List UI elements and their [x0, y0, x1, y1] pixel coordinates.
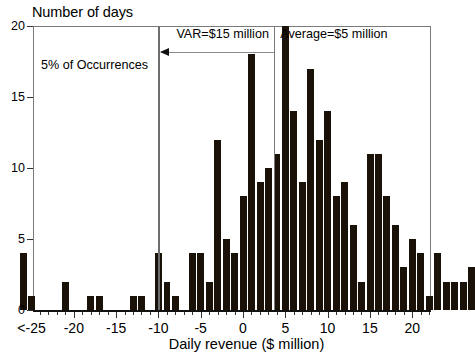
histogram-bar — [248, 54, 255, 310]
x-tick-label: -10 — [148, 320, 168, 336]
histogram-bar — [290, 111, 297, 310]
histogram-bar — [62, 282, 69, 310]
x-tick-minor — [125, 312, 126, 315]
x-tick-minor — [99, 312, 100, 315]
x-tick-label: 10 — [320, 320, 336, 336]
x-tick-minor — [133, 312, 134, 315]
histogram-bar — [443, 282, 450, 310]
x-tick-minor — [192, 312, 193, 315]
histogram-bar — [96, 296, 103, 310]
y-tick-label: 5 — [0, 232, 25, 246]
histogram-bar — [468, 267, 475, 310]
x-tick-minor — [429, 312, 430, 315]
x-tick-label: -15 — [106, 320, 126, 336]
histogram-bar — [316, 140, 323, 310]
x-tick-label: 15 — [362, 320, 378, 336]
y-tick — [27, 97, 33, 98]
occurrences-annotation-label: 5% of Occurrences — [41, 58, 148, 72]
y-tick-label: 10 — [0, 161, 25, 175]
x-tick-minor — [167, 312, 168, 315]
y-tick — [27, 310, 33, 311]
histogram-bar — [197, 253, 204, 310]
x-tick-major — [243, 312, 244, 318]
average-annotation-label: Average=$5 million — [280, 27, 387, 41]
histogram-bar — [333, 196, 340, 310]
var-annotation-label: VAR=$15 million — [176, 27, 269, 41]
x-tick-major — [285, 312, 286, 318]
histogram-bar — [299, 182, 306, 310]
plot-area: VAR=$15 million Average=$5 million 5% of… — [33, 26, 431, 311]
x-tick-minor — [218, 312, 219, 315]
x-tick-minor — [378, 312, 379, 315]
histogram-bar — [282, 26, 289, 310]
x-tick-minor — [277, 312, 278, 315]
x-tick-minor — [319, 312, 320, 315]
x-tick-minor — [336, 312, 337, 315]
histogram-bar — [409, 239, 416, 310]
plot-frame-left — [33, 26, 34, 311]
x-tick-minor — [226, 312, 227, 315]
x-tick-minor — [387, 312, 388, 315]
histogram-bar — [324, 111, 331, 310]
histogram-bar — [240, 196, 247, 310]
histogram-bar — [392, 225, 399, 310]
var-line — [158, 26, 160, 310]
x-tick-minor — [82, 312, 83, 315]
histogram-bar — [451, 282, 458, 310]
x-tick-major — [370, 312, 371, 318]
x-tick-minor — [260, 312, 261, 315]
x-tick-major — [201, 312, 202, 318]
histogram-bar — [426, 296, 433, 310]
x-tick-label: -20 — [64, 320, 84, 336]
x-tick-minor — [395, 312, 396, 315]
histogram-bar — [231, 253, 238, 310]
histogram-bar — [20, 253, 27, 310]
x-tick-label: -5 — [194, 320, 206, 336]
histogram-bar — [138, 296, 145, 310]
x-tick-label: <-25 — [17, 320, 45, 336]
y-tick-label: 20 — [0, 19, 25, 33]
x-tick-minor — [268, 312, 269, 315]
x-tick-minor — [235, 312, 236, 315]
histogram-bar — [383, 196, 390, 310]
histogram-bar — [164, 282, 171, 310]
histogram-bar — [400, 267, 407, 310]
x-tick-minor — [108, 312, 109, 315]
y-tick — [27, 26, 33, 27]
x-tick-minor — [175, 312, 176, 315]
x-tick-major — [116, 312, 117, 318]
histogram-bar — [214, 140, 221, 310]
histogram-bar — [358, 282, 365, 310]
var-arrow-line — [161, 52, 274, 53]
x-tick-label: 5 — [281, 320, 289, 336]
x-tick-minor — [251, 312, 252, 315]
y-axis-title: Number of days — [32, 4, 133, 20]
histogram-bar — [417, 253, 424, 310]
average-line — [274, 26, 275, 310]
x-tick-major — [74, 312, 75, 318]
x-tick-minor — [404, 312, 405, 315]
histogram-bar — [223, 239, 230, 310]
x-tick-minor — [294, 312, 295, 315]
histogram-bar — [341, 182, 348, 310]
x-tick-minor — [91, 312, 92, 315]
x-tick-minor — [302, 312, 303, 315]
x-tick-minor — [421, 312, 422, 315]
x-tick-major — [412, 312, 413, 318]
y-tick-label: 15 — [0, 90, 25, 104]
histogram-bar — [206, 282, 213, 310]
x-tick-major — [158, 312, 159, 318]
histogram-bar — [87, 296, 94, 310]
histogram-bar — [434, 253, 441, 310]
x-tick-minor — [311, 312, 312, 315]
x-tick-minor — [209, 312, 210, 315]
histogram-bar — [307, 69, 314, 310]
x-axis-line — [33, 310, 431, 312]
histogram-bar — [28, 296, 35, 310]
histogram-bar — [130, 296, 137, 310]
y-tick-label: 0 — [0, 303, 25, 317]
histogram-bar — [367, 154, 374, 310]
histogram-bar — [460, 282, 467, 310]
x-tick-minor — [345, 312, 346, 315]
